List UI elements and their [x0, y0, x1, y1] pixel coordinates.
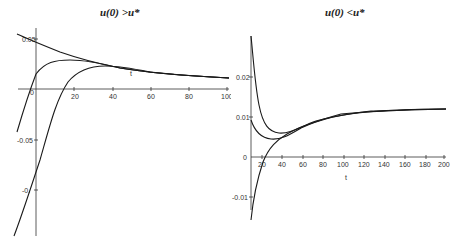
y-tick-label: -0.05: [17, 137, 33, 144]
curve-middle: [17, 60, 229, 132]
x-tick-label: 180: [419, 161, 431, 168]
x-tick-label: 40: [278, 161, 286, 168]
x-tick-label: 80: [319, 161, 327, 168]
x-tick-label: 160: [399, 161, 411, 168]
chart-u0-less: u(0) <u* 20 40 60 80 100 120 140 160 180: [231, 0, 462, 241]
x-tick-label: 120: [358, 161, 370, 168]
x-tick-label: 60: [299, 161, 307, 168]
plot-area: 20 40 60 80 100 120 140 160 180 200 0.02…: [231, 0, 462, 241]
curve-top-start: [251, 36, 446, 133]
y-tick-label: 0.01: [236, 114, 250, 121]
chart-u0-greater: u(0) >u* 20 40 60 80 100 0 0.05 -0.05 -0…: [0, 0, 231, 241]
x-tick-label: 20: [71, 93, 79, 100]
curve-upper: [17, 34, 229, 78]
x-tick-label: 40: [109, 93, 117, 100]
t-label: t: [130, 70, 132, 77]
y-tick-label: -0.01: [232, 194, 248, 201]
x-tick-label: 100: [337, 161, 349, 168]
plot-area: 20 40 60 80 100 0 0.05 -0.05 -0. t: [0, 0, 231, 241]
y-tick-label: 0: [243, 154, 247, 161]
t-label: t: [345, 174, 347, 181]
curve-lower: [14, 66, 229, 236]
x-tick-label: 60: [147, 93, 155, 100]
y-tick-label: 0.02: [236, 74, 250, 81]
x-tick-label: 100: [221, 93, 231, 100]
x-tick-label: 80: [185, 93, 193, 100]
x-tick-label: 140: [378, 161, 390, 168]
x-tick-label: 200: [438, 161, 450, 168]
